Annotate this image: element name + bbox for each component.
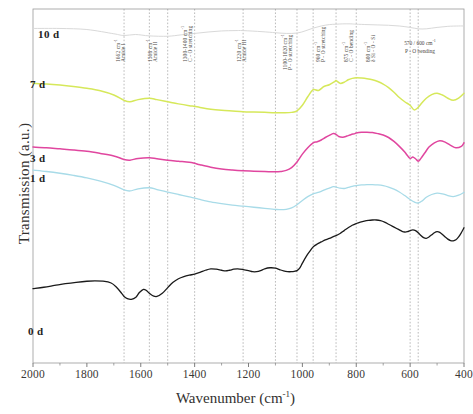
series-label-7-d: 7 d [30, 78, 46, 90]
series-label-1-d: 1 d [30, 172, 46, 184]
series-label-10-d: 10 d [38, 28, 59, 40]
annotation-wavenumber-exponent: -1 [113, 39, 118, 43]
plot-frame [33, 9, 464, 363]
annotation-wavenumber-exponent: -1 [363, 42, 368, 46]
annotation-wavenumber-exponent: -1 [432, 38, 435, 43]
annotation-assignment: P - O stretching [321, 27, 327, 62]
annotation-wavenumber-text: 570 / 600 cm [404, 40, 432, 46]
annotation-wavenumber-exponent: -1 [341, 42, 346, 46]
annotation-wavenumber-exponent: -1 [234, 39, 239, 43]
spectrum-line-1-d [33, 170, 464, 210]
x-tick-label: 1400 [183, 368, 207, 380]
annotation-assignment: C - O bending [349, 30, 355, 62]
x-tick-label: 400 [455, 368, 473, 380]
annotation-assignment: P - O bending [378, 48, 462, 56]
series-label-3-d: 3 d [30, 152, 46, 164]
x-tick-label: 2000 [21, 368, 45, 380]
x-tick-label: 1200 [237, 368, 261, 380]
annotation-assignment: Amide III [242, 40, 248, 62]
annotation-assignment: P - O stretching [288, 35, 294, 70]
annotation-po-bending: 570 / 600 cm-1P - O bending [378, 38, 462, 55]
x-tick-label: 1000 [290, 368, 314, 380]
annotation-wavenumber-exponent: -1 [145, 39, 150, 43]
spectrum-line-10-d [33, 24, 464, 36]
annotation-wavenumber-exponent: -1 [280, 34, 285, 38]
annotation-wavenumber: 570 / 600 cm-1 [378, 38, 462, 48]
x-tick-label: 600 [401, 368, 419, 380]
annotation-assignment: C - O stretching [188, 26, 194, 62]
x-tick-label: 1800 [75, 368, 99, 380]
spectrum-line-7-d [33, 78, 464, 113]
annotation-wavenumber-exponent: -1 [313, 42, 318, 46]
x-tick-label: 800 [347, 368, 365, 380]
annotation-assignment: Amide I [121, 43, 127, 62]
annotation-wavenumber-exponent: -1 [180, 26, 185, 30]
spectrum-line-3-d [33, 132, 464, 172]
x-tick-label: 1600 [129, 368, 153, 380]
annotation-assignment: δ Si - O - Si [371, 35, 377, 62]
annotation-assignment: Amide II [153, 42, 159, 62]
spectrum-line-0-d [33, 220, 464, 299]
series-label-0-d: 0 d [28, 325, 44, 337]
